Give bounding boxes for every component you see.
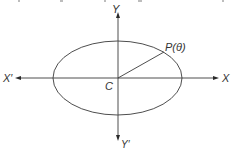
y-axis-down-arrow-icon [116,135,120,141]
y-axis [116,12,120,141]
label-point-p: P(θ) [165,41,186,53]
x-axis-left-arrow-icon [15,76,21,80]
label-x: X [221,72,230,84]
label-y-prime: Y′ [121,139,131,150]
radius-line-cp [118,52,164,78]
label-x-prime: X′ [2,72,13,84]
x-axis-right-arrow-icon [213,76,219,80]
x-axis [15,76,219,80]
ellipse-diagram: Y Y′ X X′ C P(θ) [0,0,234,152]
label-y: Y [112,3,120,15]
label-center-c: C [105,80,113,92]
clipped-text-fragments [18,0,224,2]
